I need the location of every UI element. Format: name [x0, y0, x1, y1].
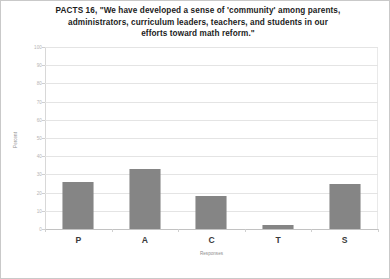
x-tick-mark-1 [112, 229, 113, 232]
y-tick-label-0: 0 [39, 227, 42, 232]
bar-slot-C [178, 47, 245, 229]
x-tick-label-S: S [342, 235, 348, 245]
y-tick-label-80: 80 [37, 81, 42, 86]
x-tick-mark-end [378, 229, 379, 232]
x-axis-title: Responses [45, 251, 378, 256]
bar-slot-S [311, 47, 378, 229]
bar-T[interactable] [263, 225, 294, 229]
x-tick-mark-4 [311, 229, 312, 232]
y-tick-label-20: 20 [37, 190, 42, 195]
gridline-0 [45, 229, 378, 230]
y-tick-label-40: 40 [37, 154, 42, 159]
y-tick-label-60: 60 [37, 117, 42, 122]
x-tick-label-A: A [142, 235, 148, 245]
y-tick-label-70: 70 [37, 99, 42, 104]
chart-title-line-1: PACTS 16, "We have developed a sense of … [33, 5, 363, 17]
bar-A[interactable] [129, 169, 160, 229]
x-tick-label-C: C [208, 235, 214, 245]
y-tick-label-30: 30 [37, 172, 42, 177]
y-tick-label-10: 10 [37, 208, 42, 213]
y-tick-label-90: 90 [37, 63, 42, 68]
x-tick-label-P: P [75, 235, 81, 245]
y-tick-label-100: 100 [34, 45, 42, 50]
bar-slot-T [245, 47, 312, 229]
plot-area: 0102030405060708090100 PACTS [45, 47, 378, 229]
bar-S[interactable] [329, 184, 360, 230]
x-tick-mark-3 [245, 229, 246, 232]
chart-title-line-3: efforts toward math reform." [33, 28, 363, 40]
chart-title: PACTS 16, "We have developed a sense of … [33, 5, 363, 40]
x-tick-mark-2 [178, 229, 179, 232]
y-axis-title: Percent [13, 132, 18, 148]
bar-slot-A [112, 47, 179, 229]
bar-slot-P [45, 47, 112, 229]
bar-C[interactable] [196, 196, 227, 229]
x-tick-label-T: T [275, 235, 280, 245]
chart-title-line-2: administrators, curriculum leaders, teac… [33, 17, 363, 29]
chart-figure: PACTS 16, "We have developed a sense of … [0, 0, 390, 279]
y-tick-label-50: 50 [37, 136, 42, 141]
x-tick-mark-0 [45, 229, 46, 232]
bar-P[interactable] [63, 182, 94, 229]
